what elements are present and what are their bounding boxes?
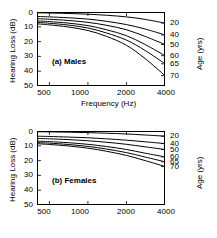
chart-panel-females: 0 10 20 30 40 50 20 40 50 60 65 70 500 1… xyxy=(0,119,217,238)
chart-panel-males: 0 10 20 30 40 50 20 40 50 60 65 70 500 1… xyxy=(0,0,217,119)
curve-age-20 xyxy=(37,13,165,23)
x-tick-label: 4000 xyxy=(150,89,182,97)
plot-curves-females xyxy=(37,131,165,205)
curve-age-20 xyxy=(37,132,165,136)
x-tick-label: 500 xyxy=(30,89,58,97)
panel-label-males: (a) Males xyxy=(52,58,86,66)
age-tick-label: 50 xyxy=(170,41,192,49)
right-axis-title: Age (yrs) xyxy=(196,157,204,189)
right-axis-title: Age (yrs) xyxy=(196,38,204,70)
x-tick-label: 2000 xyxy=(110,208,142,216)
x-tick-label: 1000 xyxy=(64,208,96,216)
panel-label-females: (b) Females xyxy=(52,177,96,185)
age-tick-label: 65 xyxy=(170,60,192,68)
x-tick-label: 500 xyxy=(30,208,58,216)
figure-root: 0 10 20 30 40 50 20 40 50 60 65 70 500 1… xyxy=(0,0,217,238)
x-tick-label: 4000 xyxy=(150,208,182,216)
y-axis-title: Hearing Loss (dB) xyxy=(9,138,17,202)
plot-curves-males xyxy=(37,12,165,86)
age-tick-label: 70 xyxy=(170,72,192,80)
y-axis-title: Hearing Loss (dB) xyxy=(9,19,17,83)
x-axis-title: Frequency (Hz) xyxy=(0,99,217,108)
age-tick-label: 40 xyxy=(170,31,192,39)
y-tick-label: 0 xyxy=(13,9,33,17)
age-tick-label: 20 xyxy=(170,19,192,27)
age-tick-label: 70 xyxy=(170,163,192,171)
x-tick-label: 1000 xyxy=(64,89,96,97)
y-tick-label: 0 xyxy=(13,128,33,136)
x-tick-label: 2000 xyxy=(110,89,142,97)
